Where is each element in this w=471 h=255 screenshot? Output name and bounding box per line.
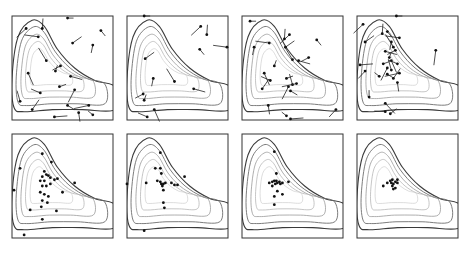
contour-lines bbox=[357, 138, 464, 230]
particle bbox=[29, 209, 32, 212]
particle bbox=[31, 108, 34, 111]
particle bbox=[315, 39, 318, 42]
particle bbox=[159, 167, 162, 170]
velocity-vector bbox=[285, 41, 294, 47]
particle bbox=[160, 172, 163, 175]
particle bbox=[45, 59, 48, 62]
particle bbox=[281, 193, 284, 196]
particle bbox=[50, 161, 53, 164]
particle bbox=[77, 111, 80, 114]
particle bbox=[40, 205, 43, 208]
particle bbox=[273, 203, 276, 206]
particle bbox=[275, 172, 278, 175]
particle bbox=[54, 70, 57, 73]
panel-3 bbox=[242, 16, 349, 120]
particle bbox=[362, 23, 365, 26]
particle bbox=[395, 15, 398, 18]
particle bbox=[390, 69, 393, 72]
particle bbox=[73, 181, 76, 184]
particle bbox=[143, 15, 146, 18]
particle bbox=[146, 115, 149, 118]
contour-lines bbox=[242, 138, 349, 230]
particle bbox=[164, 181, 167, 184]
particle bbox=[47, 174, 50, 177]
particle bbox=[384, 50, 387, 53]
particle bbox=[91, 113, 94, 116]
particle bbox=[59, 65, 62, 68]
particle bbox=[66, 17, 69, 20]
particle bbox=[41, 27, 44, 30]
particle bbox=[386, 181, 389, 184]
particle bbox=[66, 104, 69, 107]
particle bbox=[261, 87, 264, 90]
particle bbox=[170, 181, 173, 184]
particle bbox=[176, 184, 179, 187]
contour-lines bbox=[12, 138, 119, 230]
particle bbox=[382, 185, 385, 188]
particle bbox=[295, 82, 298, 85]
particle bbox=[268, 42, 271, 45]
particle bbox=[142, 93, 145, 96]
particle bbox=[285, 114, 288, 117]
velocity-vector bbox=[73, 37, 82, 43]
particle bbox=[173, 80, 176, 83]
particle bbox=[289, 118, 292, 121]
particle bbox=[253, 46, 256, 49]
particle bbox=[159, 151, 162, 154]
particle bbox=[162, 189, 165, 192]
particle bbox=[41, 218, 44, 221]
particle bbox=[152, 77, 155, 80]
particle bbox=[183, 175, 186, 178]
velocity-vector bbox=[385, 103, 395, 113]
particle bbox=[91, 44, 94, 47]
particle bbox=[53, 178, 56, 181]
velocity-vector bbox=[289, 74, 292, 85]
particle bbox=[27, 72, 30, 75]
velocity-vector bbox=[74, 105, 89, 108]
particle bbox=[41, 175, 44, 178]
particle bbox=[392, 77, 395, 80]
velocity-vector bbox=[138, 113, 147, 117]
particle bbox=[297, 59, 300, 62]
particle bbox=[173, 184, 176, 187]
particle bbox=[389, 112, 392, 115]
particle bbox=[55, 210, 58, 213]
particle bbox=[388, 56, 391, 59]
particle bbox=[396, 178, 399, 181]
particle bbox=[126, 183, 129, 186]
particle bbox=[263, 72, 266, 75]
particle bbox=[386, 67, 389, 70]
particle bbox=[161, 185, 164, 188]
particle bbox=[56, 177, 59, 180]
particle bbox=[45, 185, 48, 188]
particle bbox=[205, 33, 208, 36]
particle bbox=[335, 108, 338, 111]
velocity-vector bbox=[207, 25, 208, 35]
particle bbox=[394, 49, 397, 52]
contour-lines bbox=[242, 20, 349, 112]
particle bbox=[41, 152, 44, 155]
particle bbox=[162, 201, 165, 204]
particle bbox=[398, 72, 401, 75]
velocity-vector bbox=[145, 52, 154, 58]
particle bbox=[41, 185, 44, 188]
particle bbox=[271, 185, 274, 188]
particle bbox=[269, 79, 272, 82]
particle bbox=[39, 92, 42, 95]
particle bbox=[267, 104, 270, 107]
velocity-vector bbox=[42, 19, 43, 29]
particle bbox=[163, 206, 166, 209]
velocity-vector bbox=[191, 26, 200, 35]
particle bbox=[73, 88, 76, 91]
velocity-vector bbox=[262, 79, 269, 89]
particle bbox=[268, 181, 271, 184]
particle bbox=[153, 108, 156, 111]
panel-5 bbox=[12, 134, 119, 238]
particle bbox=[378, 75, 381, 78]
particle bbox=[381, 32, 384, 35]
velocity-vector bbox=[434, 50, 436, 65]
velocity-vector bbox=[382, 24, 383, 34]
panels-container bbox=[12, 15, 464, 238]
velocity-vector bbox=[284, 29, 285, 39]
particle bbox=[249, 20, 252, 23]
